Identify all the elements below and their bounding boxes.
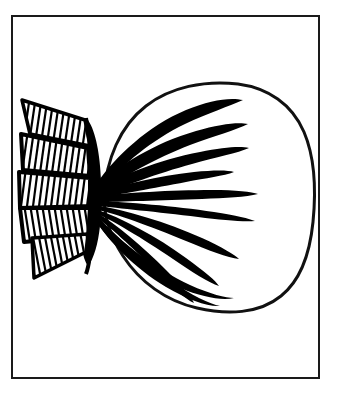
illustration-canvas: A hand-drawn black ink illustration show… — [0, 0, 342, 410]
line-drawing-figure — [0, 0, 342, 410]
